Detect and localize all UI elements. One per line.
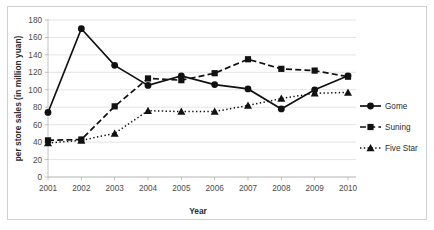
data-point [245,56,251,62]
x-tick-label: 2006 [206,184,225,193]
data-point [212,70,218,76]
data-point [111,62,118,69]
legend-item-suning[interactable]: Suning [360,123,411,132]
data-point [177,108,185,115]
x-tick-label: 2002 [72,184,91,193]
x-tick-label: 2001 [39,184,58,193]
data-point [345,74,351,80]
data-point [278,106,285,113]
data-point [178,77,184,83]
legend-marker [367,103,374,110]
y-tick-label: 100 [28,86,42,95]
data-point [112,103,118,109]
data-point [312,67,318,73]
line-chart: 020406080100120140160180 200120022003200… [8,7,428,221]
y-tick-label: 80 [33,103,43,112]
data-point [111,129,119,136]
data-point [145,75,151,81]
y-tick-label: 20 [33,156,43,165]
data-point [45,109,52,116]
chart-container: 020406080100120140160180 200120022003200… [7,6,427,220]
legend-item-five-star[interactable]: Five Star [360,144,418,153]
x-axis-tick-marks [48,177,348,181]
y-tick-label: 160 [28,33,42,42]
data-point [78,25,85,32]
legend-item-gome[interactable]: Gome [360,102,408,111]
y-tick-label: 0 [37,173,42,182]
x-tick-label: 2003 [106,184,125,193]
y-axis-tick-labels: 020406080100120140160180 [28,16,42,182]
x-tick-label: 2004 [139,184,158,193]
legend-label: Five Star [385,144,418,153]
series-line [48,92,348,143]
x-tick-label: 2008 [272,184,291,193]
data-point [278,66,284,72]
legend-label: Gome [385,102,408,111]
data-point [277,95,285,102]
y-axis-tick-marks [45,20,49,177]
series-line [48,29,348,113]
x-axis-title: Year [189,206,207,216]
y-tick-label: 40 [33,138,43,147]
x-tick-label: 2005 [172,184,191,193]
data-point [245,86,252,93]
data-point [244,101,252,108]
x-axis-tick-labels: 2001200220032004200520062007200820092010 [39,184,358,193]
x-tick-label: 2009 [306,184,325,193]
y-tick-label: 180 [28,16,42,25]
series-five-star [44,88,352,146]
y-tick-label: 60 [33,121,43,130]
series-line [48,59,348,140]
y-tick-label: 140 [28,51,42,60]
legend-marker [367,124,373,130]
data-point [211,81,218,88]
y-tick-label: 120 [28,68,42,77]
y-axis-title: per store sales (in million yuan) [13,35,23,161]
data-point [145,82,152,89]
x-tick-label: 2007 [239,184,258,193]
x-tick-label: 2010 [339,184,358,193]
series-suning [45,56,351,143]
chart-legend: GomeSuningFive Star [360,102,418,153]
legend-label: Suning [385,123,411,132]
data-series-group [44,25,352,146]
